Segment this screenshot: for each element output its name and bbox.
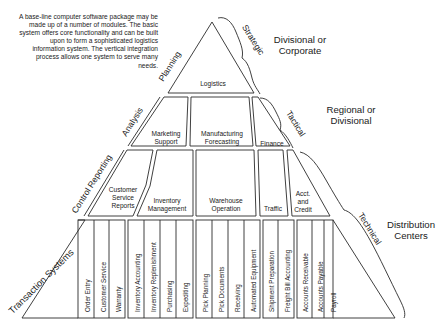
finance-label: Finance	[257, 140, 287, 148]
marketing-support-label: Marketing Support	[148, 130, 184, 146]
traffic-label: Traffic	[258, 205, 288, 213]
logistics-label: Logistics	[188, 80, 238, 88]
strategic-scope: Divisional or Corporate	[270, 34, 330, 56]
module-warranty: Warranty	[112, 222, 124, 312]
module-inventory-accounting: Inventory Accounting	[131, 222, 143, 312]
module-customer-service: Customer Service	[97, 222, 109, 312]
warehouse-operation-label: Warehouse Operation	[198, 197, 254, 213]
acct-credit-label: Acct. and Credit	[292, 190, 314, 214]
module-automated-equipment: Automated Equipment	[247, 222, 259, 312]
module-accounts-payable: Accounts Payable	[314, 222, 326, 312]
module-shipment-preparation: Shipment Preparation	[265, 222, 277, 312]
module-payroll: Payroll	[327, 222, 339, 312]
intro-paragraph: A base-line computer software package ma…	[18, 13, 158, 70]
manufacturing-forecasting-label: Manufacturing Forecasting	[192, 130, 252, 146]
module-accounts-receivable: Accounts Receivable	[299, 222, 311, 312]
module-freight-bill-accounting: Freight Bill Accounting	[281, 222, 293, 312]
customer-service-reports-label: Customer Service Reports	[105, 186, 141, 210]
module-inventory-replenishment: Inventory Replenishment	[147, 222, 159, 312]
tactical-scope: Regional or Divisional	[320, 104, 382, 126]
module-pick-planning: Pick Planning	[199, 222, 211, 312]
module-purchasing: Purchasing	[163, 222, 175, 312]
module-receiving: Receiving	[231, 222, 243, 312]
module-order-entry: Order Entry	[81, 222, 93, 312]
technical-scope: Distribution Centers	[378, 219, 444, 241]
inventory-management-label: Inventory Management	[142, 197, 192, 213]
module-pick-documents: Pick Documents	[215, 222, 227, 312]
module-expediting: Expediting	[179, 222, 191, 312]
